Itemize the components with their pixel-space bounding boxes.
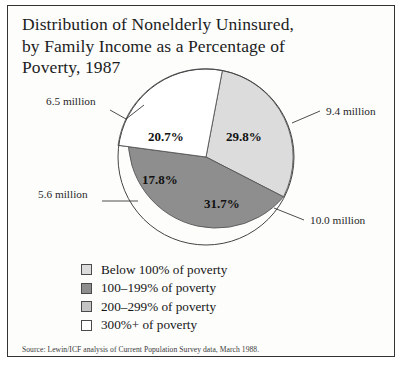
legend-label-below-100: Below 100% of poverty bbox=[101, 262, 227, 278]
chart-legend: Below 100% of poverty 100–199% of povert… bbox=[81, 261, 227, 335]
slice-label-below-100: 29.8% bbox=[226, 129, 262, 145]
figure-caption bbox=[8, 366, 308, 378]
legend-item-200-299[interactable]: 200–299% of poverty bbox=[81, 298, 227, 315]
callout-9-4-million: 9.4 million bbox=[326, 105, 376, 117]
legend-label-300-plus: 300%+ of poverty bbox=[101, 317, 197, 333]
slice-label-200-299: 17.8% bbox=[142, 172, 178, 188]
legend-item-300-plus[interactable]: 300%+ of poverty bbox=[81, 317, 227, 334]
callout-5-6-million: 5.6 million bbox=[38, 188, 88, 200]
legend-swatch-200-299 bbox=[81, 301, 92, 312]
source-note: Source: Lewin/ICF analysis of Current Po… bbox=[22, 345, 259, 354]
legend-label-200-299: 200–299% of poverty bbox=[101, 299, 216, 315]
legend-item-100-199[interactable]: 100–199% of poverty bbox=[81, 280, 227, 297]
legend-swatch-100-199 bbox=[81, 283, 92, 294]
legend-label-100-199: 100–199% of poverty bbox=[101, 280, 216, 296]
legend-item-below-100[interactable]: Below 100% of poverty bbox=[81, 261, 227, 278]
leader-line-10-0-million bbox=[274, 208, 304, 220]
legend-swatch-300-plus bbox=[81, 320, 92, 331]
slice-label-100-199: 31.7% bbox=[204, 196, 240, 212]
legend-swatch-below-100 bbox=[81, 264, 92, 275]
figure-frame: Distribution of Nonelderly Uninsured, by… bbox=[7, 5, 395, 357]
leader-line-9-4-million bbox=[292, 111, 320, 123]
callout-10-0-million: 10.0 million bbox=[310, 214, 365, 226]
callout-6-5-million: 6.5 million bbox=[46, 95, 96, 107]
slice-label-300-plus: 20.7% bbox=[148, 129, 184, 145]
